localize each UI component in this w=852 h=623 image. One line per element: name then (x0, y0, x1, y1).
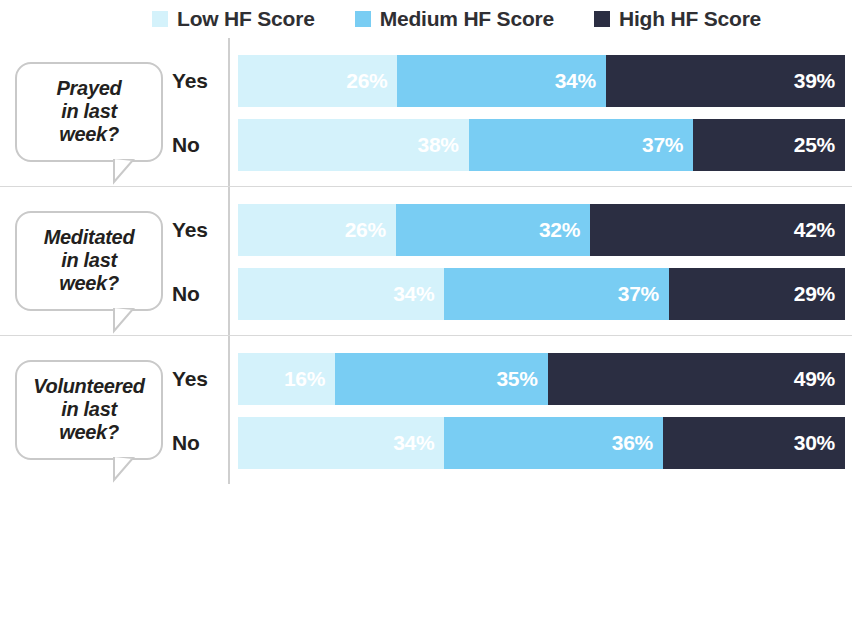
chart-legend: Low HF Score Medium HF Score High HF Sco… (0, 0, 852, 38)
bar-segment-high: 42% (590, 204, 845, 256)
bar-segment-value: 36% (612, 431, 653, 455)
bar-segment-value: 25% (794, 133, 835, 157)
bar-segment-medium: 37% (469, 119, 694, 171)
speech-bubble-tail-icon (113, 158, 139, 185)
legend-item-medium: Medium HF Score (355, 7, 554, 31)
legend-label-low: Low HF Score (177, 7, 315, 31)
bar-segment-high: 25% (693, 119, 845, 171)
legend-swatch-low-icon (152, 11, 168, 27)
question-label: Meditated in last week? (27, 226, 151, 296)
bar-segment-value: 38% (418, 133, 459, 157)
row-label-yes: Yes (172, 55, 228, 107)
row-label-yes: Yes (172, 204, 228, 256)
chart-group-volunteered: Volunteered in last week? Yes No 16% 35% (0, 335, 852, 484)
chart-group-meditated: Meditated in last week? Yes No 26% 32% (0, 186, 852, 335)
bar-segment-low: 26% (238, 55, 397, 107)
bar-segment-value: 42% (794, 218, 835, 242)
chart-group-prayed: Prayed in last week? Yes No 26% 34% (0, 38, 852, 186)
bar-segment-value: 37% (642, 133, 683, 157)
row-label-yes: Yes (172, 353, 228, 405)
bar-segment-high: 49% (548, 353, 845, 405)
bar-segment-value: 34% (555, 69, 596, 93)
bar-segment-low: 34% (238, 268, 444, 320)
bar-segment-medium: 35% (335, 353, 547, 405)
bar-segment-medium: 34% (397, 55, 605, 107)
legend-swatch-medium-icon (355, 11, 371, 27)
bar-row-yes: 16% 35% 49% (238, 353, 845, 405)
bar-segment-value: 26% (346, 69, 387, 93)
row-labels: Yes No (172, 187, 228, 335)
bar-segment-value: 35% (496, 367, 537, 391)
bar-segment-value: 49% (794, 367, 835, 391)
speech-bubble: Volunteered in last week? (15, 360, 163, 461)
bar-segment-medium: 32% (396, 204, 590, 256)
legend-item-low: Low HF Score (152, 7, 315, 31)
bars-container: 26% 32% 42% 34% 37% 29% (228, 187, 852, 335)
speech-bubble: Meditated in last week? (15, 211, 163, 312)
question-bubble-container: Prayed in last week? (0, 38, 172, 186)
bar-segment-low: 26% (238, 204, 396, 256)
bar-segment-value: 30% (794, 431, 835, 455)
question-bubble-container: Volunteered in last week? (0, 336, 172, 484)
bar-segment-value: 34% (393, 431, 434, 455)
bar-row-no: 34% 37% 29% (238, 268, 845, 320)
speech-bubble-tail-icon (113, 456, 139, 483)
row-label-no: No (172, 119, 228, 171)
bar-segment-value: 32% (539, 218, 580, 242)
row-labels: Yes No (172, 336, 228, 484)
legend-label-medium: Medium HF Score (380, 7, 554, 31)
speech-bubble: Prayed in last week? (15, 62, 163, 163)
bars-container: 16% 35% 49% 34% 36% 30% (228, 336, 852, 484)
legend-swatch-high-icon (594, 11, 610, 27)
bar-segment-value: 16% (284, 367, 325, 391)
legend-item-high: High HF Score (594, 7, 761, 31)
bar-segment-low: 34% (238, 417, 444, 469)
bar-segment-medium: 37% (444, 268, 669, 320)
bar-segment-high: 39% (606, 55, 845, 107)
bar-segment-low: 38% (238, 119, 469, 171)
question-label: Prayed in last week? (27, 77, 151, 147)
stacked-bar-chart: Prayed in last week? Yes No 26% 34% (0, 38, 852, 484)
bar-row-yes: 26% 34% 39% (238, 55, 845, 107)
bar-segment-value: 26% (345, 218, 386, 242)
bar-segment-low: 16% (238, 353, 335, 405)
row-label-no: No (172, 417, 228, 469)
row-labels: Yes No (172, 38, 228, 186)
question-bubble-container: Meditated in last week? (0, 187, 172, 335)
legend-label-high: High HF Score (619, 7, 761, 31)
bar-segment-high: 29% (669, 268, 845, 320)
bar-segment-value: 39% (794, 69, 835, 93)
bar-segment-value: 29% (794, 282, 835, 306)
bar-segment-medium: 36% (444, 417, 663, 469)
question-label: Volunteered in last week? (27, 375, 151, 445)
bar-row-no: 34% 36% 30% (238, 417, 845, 469)
bar-segment-high: 30% (663, 417, 845, 469)
bar-segment-value: 34% (393, 282, 434, 306)
row-label-no: No (172, 268, 228, 320)
speech-bubble-tail-icon (113, 307, 139, 334)
bar-row-no: 38% 37% 25% (238, 119, 845, 171)
bars-container: 26% 34% 39% 38% 37% 25% (228, 38, 852, 186)
bar-segment-value: 37% (618, 282, 659, 306)
bar-row-yes: 26% 32% 42% (238, 204, 845, 256)
